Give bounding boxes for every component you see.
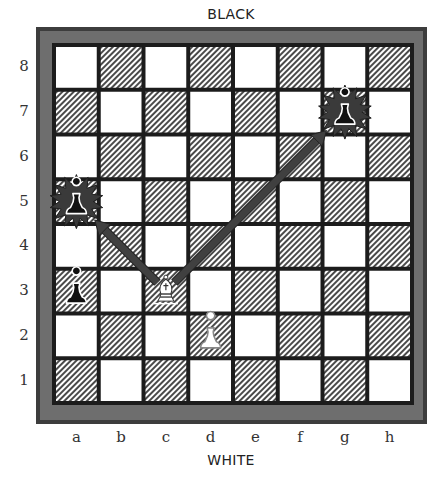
square-d8 bbox=[190, 47, 231, 88]
square-b6 bbox=[101, 137, 142, 178]
square-g1 bbox=[325, 360, 366, 401]
square-g4 bbox=[325, 226, 366, 267]
square-g6 bbox=[325, 137, 366, 178]
square-c2 bbox=[146, 316, 187, 357]
square-c4 bbox=[146, 226, 187, 267]
square-a6 bbox=[56, 137, 97, 178]
square-d7 bbox=[190, 92, 231, 133]
square-h8 bbox=[369, 47, 410, 88]
square-e4 bbox=[235, 226, 276, 267]
square-f1 bbox=[280, 360, 321, 401]
square-e6 bbox=[235, 137, 276, 178]
square-h5 bbox=[369, 181, 410, 222]
square-h6 bbox=[369, 137, 410, 178]
pawn-head bbox=[72, 267, 80, 275]
square-d5 bbox=[190, 181, 231, 222]
pawn-head bbox=[206, 311, 214, 319]
square-f3 bbox=[280, 271, 321, 312]
square-e2 bbox=[235, 316, 276, 357]
square-e7 bbox=[235, 92, 276, 133]
bishop-base bbox=[158, 297, 174, 301]
square-f5 bbox=[280, 181, 321, 222]
chess-board bbox=[0, 0, 445, 478]
square-c8 bbox=[146, 47, 187, 88]
square-a7 bbox=[56, 92, 97, 133]
square-a1 bbox=[56, 360, 97, 401]
square-e3 bbox=[235, 271, 276, 312]
square-h1 bbox=[369, 360, 410, 401]
pawn-head bbox=[341, 88, 349, 96]
square-e1 bbox=[235, 360, 276, 401]
square-a2 bbox=[56, 316, 97, 357]
square-c1 bbox=[146, 360, 187, 401]
square-b5 bbox=[101, 181, 142, 222]
square-g8 bbox=[325, 47, 366, 88]
square-f8 bbox=[280, 47, 321, 88]
square-d3 bbox=[190, 271, 231, 312]
square-f4 bbox=[280, 226, 321, 267]
square-h7 bbox=[369, 92, 410, 133]
square-d6 bbox=[190, 137, 231, 178]
square-b8 bbox=[101, 47, 142, 88]
square-h2 bbox=[369, 316, 410, 357]
square-b2 bbox=[101, 316, 142, 357]
square-e8 bbox=[235, 47, 276, 88]
square-c6 bbox=[146, 137, 187, 178]
square-g3 bbox=[325, 271, 366, 312]
square-g5 bbox=[325, 181, 366, 222]
square-h3 bbox=[369, 271, 410, 312]
square-f2 bbox=[280, 316, 321, 357]
square-b7 bbox=[101, 92, 142, 133]
square-b3 bbox=[101, 271, 142, 312]
square-f7 bbox=[280, 92, 321, 133]
pawn-head bbox=[72, 177, 80, 185]
square-g2 bbox=[325, 316, 366, 357]
square-a4 bbox=[56, 226, 97, 267]
square-c5 bbox=[146, 181, 187, 222]
square-d1 bbox=[190, 360, 231, 401]
square-b1 bbox=[101, 360, 142, 401]
square-a8 bbox=[56, 47, 97, 88]
square-h4 bbox=[369, 226, 410, 267]
square-c7 bbox=[146, 92, 187, 133]
